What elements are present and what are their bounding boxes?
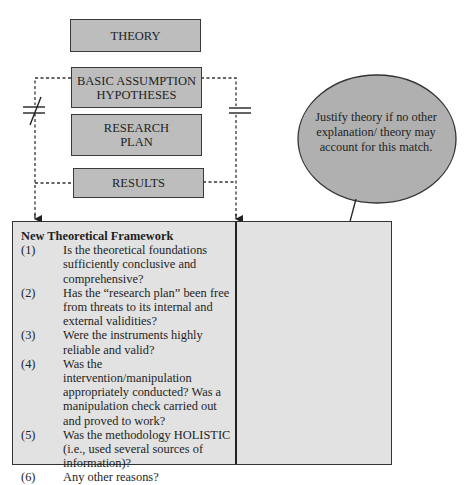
item-text: Was the intervention/manipulation approp…: [63, 357, 233, 428]
item-number: (1): [21, 243, 63, 286]
theory-label: THEORY: [111, 29, 161, 43]
item-number: (5): [21, 428, 63, 471]
item-number: (6): [21, 470, 63, 484]
panel-divider: [235, 222, 237, 464]
item-text: Is the theoretical foundations sufficien…: [63, 243, 233, 286]
list-item: (2) Has the “research plan” been free fr…: [21, 286, 233, 329]
item-number: (4): [21, 357, 63, 428]
item-number: (2): [21, 286, 63, 329]
list-item: (4) Was the intervention/manipulation ap…: [21, 357, 233, 428]
item-text: Has the “research plan” been free from t…: [63, 286, 233, 329]
theory-box: THEORY: [70, 19, 201, 52]
results-box: RESULTS: [73, 168, 204, 198]
framework-title: New Theoretical Framework: [21, 229, 233, 243]
list-item: (1) Is the theoretical foundations suffi…: [21, 243, 233, 286]
assumption-hypotheses-box: BASIC ASSUMPTION HYPOTHESES: [71, 67, 202, 108]
assumption-label-line1: BASIC ASSUMPTION: [77, 74, 196, 88]
framework-list: New Theoretical Framework (1) Is the the…: [21, 229, 233, 485]
assumption-label-line2: HYPOTHESES: [97, 88, 177, 102]
research-plan-box: RESEARCH PLAN: [71, 114, 202, 156]
item-text: Was the methodology HOLISTIC (i.e., used…: [63, 428, 233, 471]
equal-icon: [226, 106, 251, 115]
research-plan-label-line1: RESEARCH: [104, 121, 169, 135]
list-item: (5) Was the methodology HOLISTIC (i.e., …: [21, 428, 233, 471]
item-text: Were the instruments highly reliable and…: [63, 328, 233, 356]
item-text: Any other reasons?: [63, 470, 233, 484]
framework-panel: New Theoretical Framework (1) Is the the…: [12, 221, 392, 465]
bubble-text: Justify theory if no other explanation/ …: [312, 110, 440, 155]
item-number: (3): [21, 328, 63, 356]
research-plan-label-line2: PLAN: [120, 135, 153, 149]
results-label: RESULTS: [112, 176, 165, 190]
list-item: (6) Any other reasons?: [21, 470, 233, 484]
list-item: (3) Were the instruments highly reliable…: [21, 328, 233, 356]
right-dashed-connector: [201, 78, 236, 216]
